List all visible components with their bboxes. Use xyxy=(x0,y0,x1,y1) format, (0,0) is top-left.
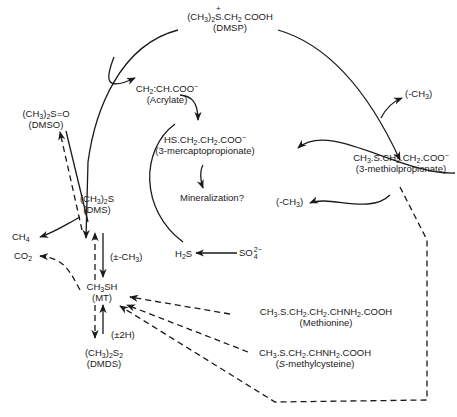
text: .CHNH xyxy=(306,347,336,358)
text: .CH xyxy=(197,134,213,145)
dmsp-formula: (CH xyxy=(187,11,204,22)
text: CO xyxy=(14,250,28,261)
text: (-CH xyxy=(276,196,296,207)
arrow-mt-to-co2 xyxy=(40,256,80,290)
text: CH xyxy=(87,281,101,292)
sub: 4 xyxy=(254,253,262,260)
text: :CH.COO xyxy=(153,83,194,94)
text: (CH xyxy=(22,108,39,119)
text: (CH xyxy=(85,347,102,358)
dms-name: (DMS) xyxy=(70,204,124,215)
charge-plus: + xyxy=(216,3,221,14)
text: .COO xyxy=(420,152,444,163)
text: CH xyxy=(353,152,367,163)
node-mt: CH3SH (MT) xyxy=(80,281,124,303)
mercaptopropionate-name: (3-mercaptopropionate) xyxy=(145,145,265,156)
node-h2s: H2S xyxy=(175,248,192,259)
charge: − xyxy=(194,83,198,90)
methiolpropionate-name: (3-methiolpropionate) xyxy=(345,163,457,174)
sulfate-sup-sub: 2−4 xyxy=(254,246,262,260)
charge: − xyxy=(445,152,449,159)
node-co2: CO2 xyxy=(14,250,32,261)
dmds-name: (DMDS) xyxy=(78,358,130,369)
mt-name: (MT) xyxy=(80,292,124,303)
arrow-mp-to-mineralization xyxy=(201,165,203,188)
text: H xyxy=(175,248,182,259)
node-acrylate: CH2:CH.COO− (Acrylate) xyxy=(122,83,212,105)
dmso-name: (DMSO) xyxy=(14,119,78,130)
text: -methylcysteine) xyxy=(285,358,354,369)
charge: − xyxy=(242,134,246,141)
acrylate-name: (Acrylate) xyxy=(122,94,212,105)
annotation-demethyl-top: (-CH3) xyxy=(405,88,432,99)
text: ) xyxy=(139,251,142,262)
text: .CH xyxy=(307,306,323,317)
text: ) xyxy=(300,196,303,207)
text: S xyxy=(186,248,192,259)
node-dms: (CH3)2S (DMS) xyxy=(70,193,124,215)
text: SH xyxy=(104,281,117,292)
text: (-CH xyxy=(405,88,425,99)
node-mineralization: Mineralization? xyxy=(172,192,252,203)
methionine-name: (Methionine) xyxy=(246,317,406,328)
sub: 4 xyxy=(26,236,30,243)
arrow-mpa-to-mt xyxy=(120,187,427,402)
text: .S.CH xyxy=(277,347,302,358)
text: .CHNH xyxy=(327,306,357,317)
text: CH xyxy=(260,306,274,317)
text: .COOH xyxy=(340,347,371,358)
text: .S.CH xyxy=(277,306,302,317)
node-methiolpropionate: CH3.S.CH2.CH2.COO− (3-methiolpropionate) xyxy=(345,152,457,174)
dmsp-pathway-diagram: (CH3)2+S.CH2 COOH (DMSP) CH2:CH.COO− (Ac… xyxy=(0,0,457,417)
arrow-demethyl-mid xyxy=(310,195,390,204)
text: COOH xyxy=(242,11,273,22)
text: S xyxy=(108,193,114,204)
node-sulfate: SO2−4 xyxy=(239,246,262,260)
arrow-smc-to-mt xyxy=(127,305,248,352)
arrow-demethyl-top xyxy=(381,98,402,118)
sub: 2 xyxy=(28,255,32,262)
annotation-pm-ch3: (±-CH3) xyxy=(110,251,142,262)
annotation-pm-2h: (±2H) xyxy=(111,329,135,340)
text: CH xyxy=(136,83,150,94)
arrow-dmsp-to-mpa xyxy=(278,30,400,160)
node-ch4: CH4 xyxy=(12,231,30,242)
node-s-methylcysteine: CH3.S.CH2.CHNH2.COOH (S-methylcysteine) xyxy=(250,347,380,369)
arrow-dms-to-ch4 xyxy=(40,217,80,237)
node-methionine: CH3.S.CH2.CH2.CHNH2.COOH (Methionine) xyxy=(246,306,406,328)
annotation-demethyl-mid: (-CH3) xyxy=(276,196,303,207)
text: .CH xyxy=(400,152,416,163)
text: HS.CH xyxy=(164,134,194,145)
node-dmds: (CH3)2S2 (DMDS) xyxy=(78,347,130,369)
text: .COOH xyxy=(361,306,392,317)
pathway-arrows xyxy=(0,0,457,417)
dmsp-name: (DMSP) xyxy=(170,22,290,33)
text: S=O xyxy=(50,108,69,119)
text: ) xyxy=(429,88,432,99)
node-dmso: (CH3)2S=O (DMSO) xyxy=(14,108,78,130)
text: (CH xyxy=(80,193,97,204)
text: .COO xyxy=(218,134,242,145)
node-mercaptopropionate: HS.CH2.CH2.COO− (3-mercaptopropionate) xyxy=(145,134,265,156)
node-dmsp: (CH3)2+S.CH2 COOH (DMSP) xyxy=(170,11,290,33)
text: CH xyxy=(259,347,273,358)
text: (±-CH xyxy=(110,251,135,262)
text: SO xyxy=(239,247,253,258)
text: .S.CH xyxy=(371,152,396,163)
sup: 2− xyxy=(254,246,262,253)
text: CH xyxy=(12,231,26,242)
